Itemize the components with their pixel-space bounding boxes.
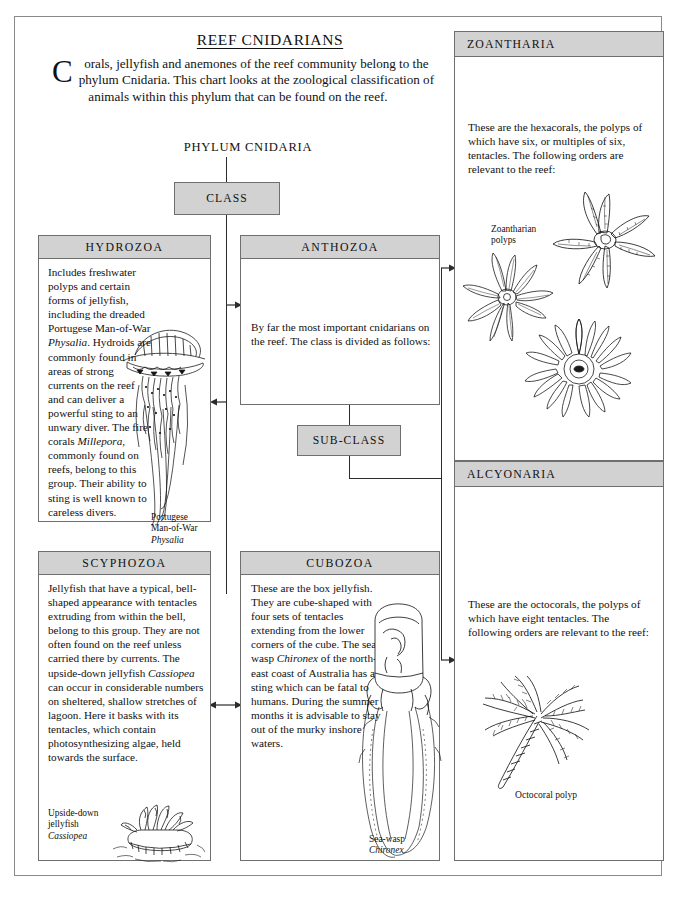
scyphozoa-text-part2: can occur in considerable numbers on she… [48, 681, 203, 763]
scyphozoa-species-cassiopea: Cassiopea [148, 667, 195, 679]
panel-alcyonaria-body: These are the octocorals, the polyps of … [455, 487, 663, 862]
panel-zoantharia[interactable]: ZOANTHARIA These are the hexacorals, the… [454, 31, 664, 461]
panel-anthozoa[interactable]: ANTHOZOA By far the most important cnida… [240, 235, 440, 405]
panel-zoantharia-text: These are the hexacorals, the polyps of … [468, 120, 650, 176]
rank-box-subclass[interactable]: SUB-CLASS [297, 425, 401, 456]
sea-wasp-chironex-illustration [353, 599, 443, 864]
hydrozoa-caption-line2: Man-of-War [151, 523, 198, 533]
panel-scyphozoa-title: SCYPHOZOA [39, 552, 210, 575]
scyphozoa-caption: Upside-down jellyfish Cassiopea [48, 808, 114, 842]
rank-box-class[interactable]: CLASS [174, 182, 280, 215]
cassiopea-illustration [111, 797, 207, 867]
connector-anthozoa-to-subclass [349, 405, 350, 425]
cubozoa-species-chironex: Chironex [277, 652, 318, 664]
panel-alcyonaria[interactable]: ALCYONARIA These are the octocorals, the… [454, 461, 664, 861]
alcyonaria-caption: Octocoral polyp [515, 789, 625, 800]
scyphozoa-caption-line1: Upside-down [48, 808, 99, 818]
panel-hydrozoa-body: Includes freshwater polyps and certain f… [39, 259, 210, 521]
phylum-label: PHYLUM CNIDARIA [128, 140, 368, 155]
panel-zoantharia-body: These are the hexacorals, the polyps of … [455, 57, 663, 462]
panel-anthozoa-title: ANTHOZOA [241, 236, 439, 259]
cubozoa-caption: Sea-wasp Chironex [369, 834, 435, 857]
intro-paragraph: Corals, jellyfish and anemones of the re… [38, 56, 438, 105]
panel-alcyonaria-text: These are the octocorals, the polyps of … [468, 597, 650, 639]
panel-scyphozoa-body: Jellyfish that have a typical, bell-shap… [39, 575, 210, 860]
panel-anthozoa-text: By far the most important cnidarians on … [251, 320, 431, 348]
panel-anthozoa-body: By far the most important cnidarians on … [241, 259, 439, 404]
scyphozoa-text-part1: Jellyfish that have a typical, bell-shap… [48, 582, 200, 679]
panel-alcyonaria-title: ALCYONARIA [455, 462, 663, 487]
panel-cubozoa[interactable]: CUBOZOA These are the box jellyfish. The… [240, 551, 440, 861]
zoantharian-polyp-hexacoral-illustration [547, 188, 659, 298]
panel-hydrozoa-title: HYDROZOA [39, 236, 210, 259]
chart-page: REEF CNIDARIANS Corals, jellyfish and an… [0, 0, 678, 907]
hydrozoa-caption-line1: Portugese [151, 512, 188, 522]
connector-subclass-down [349, 456, 350, 478]
page-title: REEF CNIDARIANS [155, 31, 385, 49]
hydrozoa-caption-species: Physalia [151, 535, 184, 545]
octocoral-polyp-illustration [467, 672, 607, 802]
scyphozoa-caption-species: Cassiopea [48, 831, 87, 841]
cubozoa-caption-species: Chironex [369, 845, 404, 855]
panel-zoantharia-title: ZOANTHARIA [455, 32, 663, 57]
hydrozoa-caption: Portugese Man-of-War Physalia [151, 512, 213, 546]
panel-cubozoa-title: CUBOZOA [241, 552, 439, 575]
panel-scyphozoa[interactable]: SCYPHOZOA Jellyfish that have a typical,… [38, 551, 211, 861]
panel-scyphozoa-text: Jellyfish that have a typical, bell-shap… [48, 581, 206, 764]
zoantharia-caption-line2: polyps [491, 235, 516, 245]
portuguese-man-of-war-illustration [113, 315, 213, 530]
panel-cubozoa-body: These are the box jellyfish. They are cu… [241, 575, 439, 860]
drop-cap: C [38, 57, 75, 85]
intro-text: orals, jellyfish and anemones of the ree… [79, 56, 434, 104]
zoantharia-caption-line1: Zoantharian [491, 224, 536, 234]
cubozoa-caption-line1: Sea-wasp [369, 834, 405, 844]
panel-hydrozoa[interactable]: HYDROZOA Includes freshwater polyps and … [38, 235, 211, 522]
scyphozoa-caption-line2: jellyfish [48, 819, 79, 829]
hydrozoa-species-physalia: Physalia [48, 336, 87, 348]
arrow-scyphozoa-cubozoa [209, 700, 242, 710]
connector-subclass-to-right-spine [349, 478, 441, 479]
connector-phylum-to-class [226, 157, 227, 182]
zoantharian-polyp-disc-illustration [523, 317, 635, 421]
